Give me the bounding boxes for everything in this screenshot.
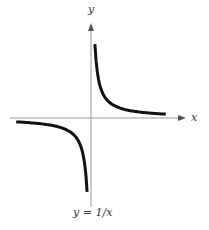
chart-caption: y = 1/x [73, 206, 112, 219]
x-axis-arrow-icon [178, 115, 186, 121]
y-axis-label: y [88, 3, 94, 16]
curve-positive-branch [95, 44, 166, 114]
curve-negative-branch [16, 122, 87, 192]
plot-area [0, 0, 209, 230]
y-axis-arrow-icon [88, 23, 94, 31]
x-axis-label: x [191, 111, 197, 124]
